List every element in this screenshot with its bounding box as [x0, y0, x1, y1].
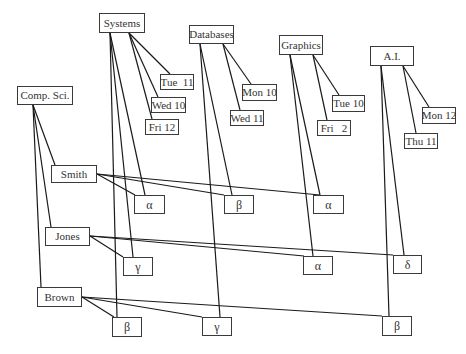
node-gamma2: γ	[202, 317, 232, 336]
node-mon12: Mon 12	[422, 107, 456, 124]
edge-line	[90, 236, 304, 256]
node-wed10: Wed 10	[151, 97, 186, 113]
node-beta2: β	[112, 317, 142, 337]
node-graphics: Graphics	[279, 35, 323, 55]
node-ai: A.I.	[370, 46, 414, 66]
node-wed11: Wed 11	[230, 110, 264, 126]
node-thu11: Thu 11	[404, 133, 438, 149]
node-alpha3: α	[303, 256, 333, 275]
edge-line	[290, 55, 313, 256]
edge-line	[200, 44, 220, 317]
edge-line	[290, 55, 320, 195]
node-fri12: Fri 12	[145, 119, 179, 135]
node-databases: Databases	[189, 25, 234, 44]
edge-line	[82, 297, 382, 316]
edge-line	[200, 44, 232, 195]
node-fri2: Fri 2	[317, 120, 351, 136]
node-mon10: Mon 10	[242, 84, 277, 101]
edge-line	[110, 33, 133, 257]
node-systems: Systems	[99, 13, 145, 33]
node-brown: Brown	[37, 287, 82, 307]
edge-line	[223, 44, 251, 84]
edge-line	[33, 105, 55, 165]
node-compsci: Comp. Sci.	[17, 86, 73, 105]
node-gamma1: γ	[123, 257, 153, 276]
edge-line	[90, 236, 393, 255]
node-beta3: β	[382, 316, 412, 336]
edge-line	[129, 33, 170, 74]
node-tue10: Tue 10	[332, 95, 365, 112]
node-tue11: Tue 11	[160, 74, 194, 90]
node-delta1: δ	[393, 255, 422, 274]
edge-line	[82, 297, 202, 317]
node-smith: Smith	[51, 165, 97, 183]
node-jones: Jones	[45, 227, 90, 246]
node-alpha2: α	[313, 195, 344, 214]
node-alpha1: α	[134, 195, 165, 214]
diagram-canvas: SystemsDatabasesGraphicsA.I.Comp. Sci.Tu…	[0, 0, 466, 354]
edge-line	[223, 44, 240, 110]
node-beta1: β	[224, 195, 254, 214]
